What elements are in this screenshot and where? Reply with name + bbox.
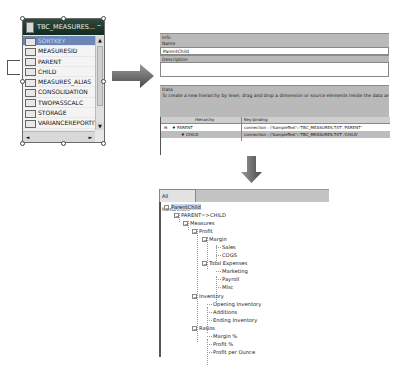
column-header-hierarchy[interactable]: Hierarchy <box>195 117 214 123</box>
column-type-icon <box>25 89 36 97</box>
tab-all-hierarchies[interactable]: All hierarchies <box>159 189 196 202</box>
join-connector <box>7 60 20 75</box>
column-type-icon <box>25 38 36 46</box>
column-list: SORTKEY MEASURESID PARENT CHILD MEASURES… <box>23 36 95 130</box>
tree-node[interactable]: Opening Inventory <box>207 300 261 308</box>
column-type-icon <box>25 110 36 118</box>
column-item[interactable]: CHILD <box>23 67 95 77</box>
tree-node[interactable]: Sales <box>216 243 236 251</box>
column-type-icon <box>25 68 36 76</box>
tree-node[interactable]: Payroll <box>216 275 239 283</box>
column-item[interactable]: MEASURES_ALIAS <box>23 77 95 87</box>
expand-icon[interactable]: ⊟ <box>164 124 167 131</box>
resize-handle[interactable] <box>101 141 106 146</box>
hierarchy-tree: −ParentChild −PARENT=>CHILD −Measures −P… <box>159 202 406 357</box>
column-type-icon <box>25 79 36 87</box>
horizontal-scrollbar[interactable]: ◄ ► <box>23 131 95 142</box>
name-input[interactable]: ParentChild <box>160 47 389 55</box>
tree-node[interactable]: −PARENT=>CHILD <box>174 211 226 219</box>
column-type-icon <box>25 120 36 128</box>
resize-handle[interactable] <box>101 79 106 84</box>
tree-node[interactable]: −Profit <box>192 227 213 235</box>
hierarchy-grid: Hierarchy Key binding ⊟ ♦ PARENT connect… <box>160 117 390 155</box>
hierarchy-editor-panel: Info Name ParentChild Description Data T… <box>160 33 406 156</box>
tree-node[interactable]: −Inventory <box>192 292 224 300</box>
instructions-text: To create a new hierarchy by level, drag… <box>160 92 389 117</box>
tree-node[interactable]: −Measures <box>183 219 215 227</box>
column-item[interactable]: PARENT <box>23 57 95 67</box>
column-item[interactable]: SORTKEY <box>23 36 95 46</box>
resize-handle[interactable] <box>20 79 25 84</box>
column-item[interactable]: CONSOLIDATION <box>23 87 95 97</box>
section-data-header: Data <box>160 85 389 92</box>
column-type-icon <box>25 58 36 66</box>
tree-node[interactable]: COGS <box>216 251 237 259</box>
column-item[interactable]: TIMEBALANCE <box>23 129 95 130</box>
scroll-right-icon[interactable]: ► <box>86 132 95 142</box>
hierarchy-icon: ♦ <box>172 124 176 131</box>
scroll-down-icon[interactable]: ▼ <box>96 122 104 130</box>
column-item[interactable]: TWOPASSCALC <box>23 98 95 108</box>
tree-node[interactable]: Marketing <box>216 267 248 275</box>
table-title-bar[interactable]: TBC_MEASURES... – <box>23 19 104 35</box>
scroll-up-icon[interactable]: ▲ <box>96 36 104 44</box>
tree-node[interactable]: Misc <box>216 283 233 291</box>
column-type-icon <box>25 48 36 56</box>
collapse-icon[interactable]: − <box>192 229 197 234</box>
resize-handle[interactable] <box>101 16 106 21</box>
column-item[interactable]: STORAGE <box>23 108 95 118</box>
table-widget[interactable]: TBC_MEASURES... – SORTKEY MEASURESID PAR… <box>22 18 105 143</box>
tree-node[interactable]: Profit % <box>207 340 233 348</box>
column-item[interactable]: MEASURESID <box>23 46 95 56</box>
grid-row[interactable]: ♦ CHILD connection : ('SampleText'::'TBC… <box>161 131 390 138</box>
tree-node[interactable]: Profit per Ounce <box>207 348 255 356</box>
arrow-right-icon <box>110 63 156 89</box>
resize-handle[interactable] <box>20 16 25 21</box>
column-divider[interactable] <box>241 117 242 141</box>
resize-handle[interactable] <box>61 141 66 146</box>
name-label: Name <box>160 40 389 47</box>
collapse-icon[interactable]: − <box>192 326 197 331</box>
tree-node[interactable]: −Margin <box>202 235 227 243</box>
section-info-header: Info <box>160 33 389 40</box>
description-input[interactable] <box>160 62 389 77</box>
grid-row[interactable]: ⊟ ♦ PARENT connection : ('SampleText'::'… <box>161 124 390 131</box>
hierarchy-icon: ♦ <box>181 131 185 138</box>
collapse-icon[interactable]: − <box>192 294 197 299</box>
collapse-icon[interactable]: − <box>174 213 179 218</box>
tree-node[interactable]: Additions <box>207 308 237 316</box>
scroll-thumb[interactable] <box>97 46 103 106</box>
tree-node[interactable]: −Ratios <box>192 324 215 332</box>
tree-node[interactable]: −Total Expenses <box>202 259 247 267</box>
tree-node[interactable]: Margin % <box>207 332 237 340</box>
tree-node[interactable]: Ending Inventory <box>207 316 257 324</box>
column-header-key-binding[interactable]: Key binding <box>244 117 267 123</box>
column-type-icon <box>25 99 36 107</box>
tree-node[interactable]: −ParentChild <box>164 203 201 211</box>
collapse-icon[interactable]: − <box>202 261 207 266</box>
table-title: TBC_MEASURES... <box>37 23 95 31</box>
minimize-icon[interactable]: – <box>97 19 101 34</box>
collapse-icon[interactable]: − <box>164 205 169 210</box>
resize-handle[interactable] <box>61 16 66 21</box>
collapse-icon[interactable]: − <box>183 221 188 226</box>
all-hierarchies-panel: All hierarchies −ParentChild −PARENT=>CH… <box>159 189 406 390</box>
table-icon <box>26 22 34 33</box>
collapse-icon[interactable]: − <box>202 237 207 242</box>
scroll-left-icon[interactable]: ◄ <box>23 132 32 142</box>
resize-handle[interactable] <box>20 141 25 146</box>
column-item[interactable]: VARIANCEREPORTIT <box>23 118 95 128</box>
grid-header: Hierarchy Key binding <box>161 117 390 124</box>
description-label: Description <box>160 55 389 62</box>
tab-strip <box>196 189 329 202</box>
